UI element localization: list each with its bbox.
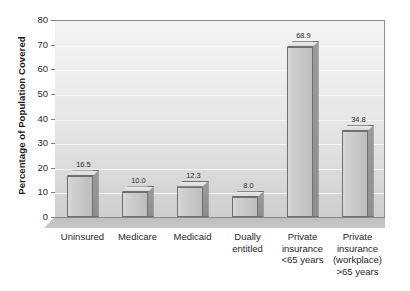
gridline	[55, 144, 384, 145]
chart-floor	[44, 217, 385, 228]
bar-value-label: 16.5	[68, 160, 100, 169]
bar-side-face	[203, 181, 209, 217]
bar[interactable]	[287, 41, 319, 217]
bar-side-face	[93, 170, 99, 217]
y-axis-title: Percentage of Population Covered	[16, 16, 27, 216]
gridline	[55, 193, 384, 194]
bar[interactable]	[122, 186, 154, 217]
bar-front-face	[287, 47, 313, 217]
chart-floor-face	[44, 217, 385, 228]
y-axis-tick-label: 60	[28, 64, 48, 74]
bar-front-face	[177, 187, 203, 217]
bar-side-face	[368, 125, 374, 217]
gridline	[55, 46, 384, 47]
bar[interactable]	[177, 181, 209, 217]
y-axis-tick-label: 70	[28, 40, 48, 50]
gridline	[55, 169, 384, 170]
x-axis-category-label: Medicaid	[165, 231, 220, 243]
y-axis-tick-label: 20	[28, 163, 48, 173]
x-axis-category-label: Private insurance (workplace) >65 years	[330, 231, 385, 277]
y-axis-tick-label: 30	[28, 138, 48, 148]
bar-front-face	[232, 197, 258, 217]
y-axis-tick-label: 80	[28, 15, 48, 25]
y-axis-tick-label: 50	[28, 89, 48, 99]
plot-area	[55, 20, 385, 217]
bar-front-face	[67, 176, 93, 217]
bar[interactable]	[232, 191, 264, 217]
bar-value-label: 34.8	[343, 115, 375, 124]
x-axis-category-label: Medicare	[110, 231, 165, 243]
bar-value-label: 10.0	[123, 176, 155, 185]
x-axis-category-label: Dually entitled	[220, 231, 275, 254]
x-axis-category-label: Uninsured	[55, 231, 110, 243]
gridline	[55, 120, 384, 121]
bar-value-label: 8.0	[233, 181, 265, 190]
y-axis-tick-label: 40	[28, 114, 48, 124]
x-axis-baseline	[55, 217, 385, 218]
bar-value-label: 68.9	[288, 31, 320, 40]
bar-front-face	[122, 192, 148, 217]
bar[interactable]	[67, 170, 99, 217]
bar-side-face	[313, 41, 319, 217]
y-axis-tick-label: 10	[28, 187, 48, 197]
gridline	[55, 70, 384, 71]
bar-front-face	[342, 131, 368, 217]
gridline	[55, 95, 384, 96]
bar-chart: Percentage of Population Covered 0102030…	[0, 0, 410, 291]
bar[interactable]	[342, 125, 374, 217]
x-axis-category-label: Private insurance <65 years	[275, 231, 330, 266]
bar-value-label: 12.3	[178, 171, 210, 180]
